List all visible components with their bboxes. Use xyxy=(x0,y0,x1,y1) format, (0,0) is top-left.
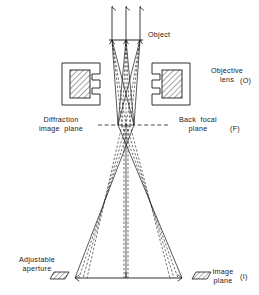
label-adjustable-aperture: Adjustable aperture xyxy=(6,255,68,273)
optics-ray-diagram xyxy=(0,0,259,295)
lower-rays-solid xyxy=(75,125,182,278)
label-objective-lens-tag: (O) xyxy=(240,76,251,85)
lower-rays-dashed xyxy=(79,125,178,278)
illumination-arrows xyxy=(112,7,140,40)
objective-lens-pole-piece-left xyxy=(62,63,100,105)
objective-lens-pole-piece-right xyxy=(152,63,190,105)
label-image-plane: Image plane xyxy=(208,267,238,285)
label-back-focal-plane-tag: (F) xyxy=(230,124,240,133)
label-image-plane-tag: (I) xyxy=(240,272,248,281)
ray-diagram-figure: Object Objective lens (O) Diffraction im… xyxy=(0,0,259,295)
image-plane-line xyxy=(75,272,182,281)
upper-rays-dashed xyxy=(112,40,140,125)
pole-piece-core-left xyxy=(70,70,90,98)
label-diffraction-image-plane: Diffraction image plane xyxy=(16,115,106,133)
label-object: Object xyxy=(148,30,170,39)
pole-piece-core-right xyxy=(162,70,182,98)
label-back-focal-plane: Back focal plane xyxy=(168,115,228,133)
